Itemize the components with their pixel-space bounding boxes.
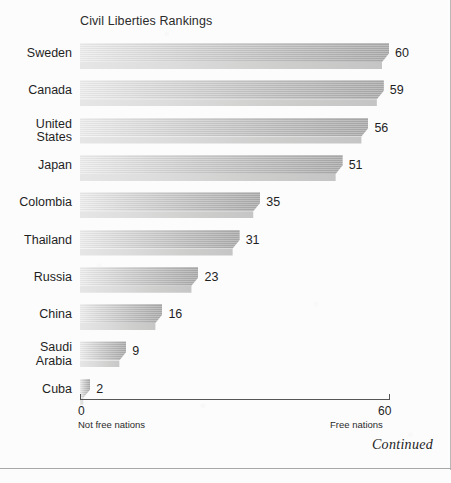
x-axis-line — [80, 399, 390, 400]
bar-body — [80, 80, 384, 99]
bar — [80, 192, 260, 218]
bar-base — [80, 323, 162, 330]
bar — [80, 230, 240, 256]
x-axis-tick-label-max: 60 — [378, 404, 391, 418]
bar — [80, 80, 384, 106]
figure-page: Civil Liberties Rankings Sweden60Canada5… — [0, 0, 451, 483]
bar — [80, 379, 90, 405]
bar-category-label: Cuba — [42, 383, 72, 397]
bar-base — [80, 360, 126, 367]
bar-base — [80, 211, 260, 218]
bar-category-label: China — [39, 308, 72, 322]
bar-body — [80, 155, 343, 174]
bar-category-label: United States — [36, 118, 72, 145]
bar — [80, 304, 162, 330]
bar-value-label: 2 — [96, 382, 103, 396]
bar-body — [80, 341, 126, 360]
bar — [80, 118, 368, 144]
x-axis-sublabel-max: Free nations — [330, 419, 383, 430]
bar-base — [80, 62, 389, 69]
bar-value-label: 31 — [246, 233, 260, 247]
bar — [80, 43, 389, 69]
x-axis-tick-end — [389, 394, 390, 400]
bar-category-label: Colombia — [19, 196, 72, 210]
bar-body — [80, 379, 90, 398]
bar — [80, 341, 126, 367]
bar-value-label: 35 — [266, 195, 280, 209]
bar-value-label: 23 — [204, 270, 218, 284]
bar-category-label: Russia — [34, 271, 72, 285]
bar-base — [80, 99, 384, 106]
bar-body — [80, 43, 389, 62]
x-axis-tick-start — [80, 394, 81, 400]
bar-value-label: 9 — [132, 344, 139, 358]
bar-category-label: Saudi Arabia — [36, 341, 72, 368]
bar-value-label: 56 — [374, 121, 388, 135]
bar-value-label: 16 — [168, 307, 182, 321]
bar-category-label: Canada — [28, 84, 72, 98]
bar — [80, 155, 343, 181]
bar-value-label: 59 — [390, 83, 404, 97]
bar-base — [80, 137, 368, 144]
bar — [80, 267, 198, 293]
continued-label: Continued — [372, 437, 433, 453]
bar-category-label: Japan — [38, 159, 72, 173]
bar-category-label: Sweden — [27, 47, 72, 61]
x-axis-tick-label-min: 0 — [78, 404, 85, 418]
bar-body — [80, 267, 198, 286]
bar-value-label: 51 — [349, 158, 363, 172]
bar-body — [80, 304, 162, 323]
bar-body — [80, 118, 368, 137]
bar-category-label: Thailand — [24, 234, 72, 248]
bar-value-label: 60 — [395, 46, 409, 60]
bar-base — [80, 249, 240, 256]
bar-base — [80, 286, 198, 293]
bar-base — [80, 174, 343, 181]
x-axis-sublabel-min: Not free nations — [78, 419, 145, 430]
bar-body — [80, 192, 260, 211]
bar-body — [80, 230, 240, 249]
